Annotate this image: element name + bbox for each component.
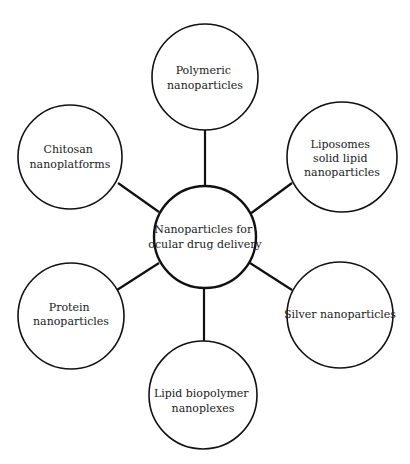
node-chitosan: Chitosan nanoplatforms — [18, 105, 122, 209]
connector-liposomes — [250, 183, 292, 214]
node-silver-label: Silver nanoparticles — [284, 308, 396, 321]
node-liposomes-label: Liposomes solid lipid nanoparticles — [304, 138, 380, 179]
diagram-canvas: Nanoparticles for ocular drug delivery P… — [0, 0, 410, 464]
node-silver: Silver nanoparticles — [284, 262, 396, 368]
connector-protein — [117, 263, 159, 290]
node-liposomes: Liposomes solid lipid nanoparticles — [287, 102, 397, 212]
node-lipid-biopolymer: Lipid biopolymer nanoplexes — [149, 341, 257, 449]
connector-chitosan — [118, 183, 159, 212]
node-polymeric: Polymeric nanoparticles — [152, 24, 258, 130]
node-protein: Protein nanoparticles — [18, 263, 124, 369]
center-node: Nanoparticles for ocular drug delivery — [148, 186, 262, 288]
connector-silver — [250, 263, 292, 290]
